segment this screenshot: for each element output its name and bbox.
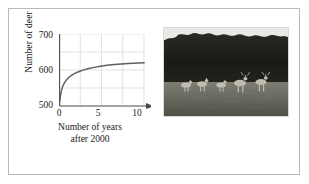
deer-population-chart: Number of deer 700 600 500 0 5 10 Number… [9,9,164,176]
plot-area [59,34,144,106]
photo-grass [164,82,288,116]
y-tick-label-500: 500 [31,100,53,110]
deer-photo-svg [164,28,288,116]
textbook-figure: Number of deer 700 600 500 0 5 10 Number… [8,8,300,175]
deer-photograph [163,27,289,117]
plot-svg [59,34,151,116]
photo-treeline [164,33,288,86]
x-axis-label: Number of years after 2000 [25,122,155,145]
y-tick-label-700: 700 [31,30,53,40]
x-axis-label-line2: after 2000 [71,134,110,144]
x-axis-arrow-icon [146,103,151,109]
y-tick-label-600: 600 [31,65,53,75]
population-curve [60,63,144,102]
grid-lines [59,34,144,106]
x-axis-label-line1: Number of years [58,122,122,132]
